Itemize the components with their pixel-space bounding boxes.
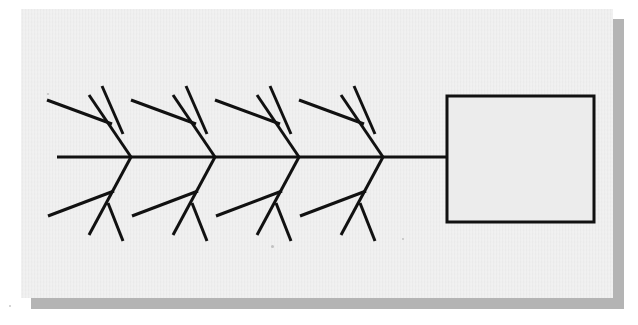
twig-bottom-4b — [360, 203, 375, 241]
twig-bottom-2a — [132, 191, 198, 216]
twig-bottom-1a — [48, 191, 114, 216]
twig-top-3b — [270, 86, 291, 134]
rib-bottom-3 — [257, 157, 299, 235]
twig-top-2b — [186, 86, 207, 134]
twig-bottom-1b — [108, 203, 123, 241]
effect-box-label — [447, 96, 594, 222]
paper-speck — [9, 305, 11, 307]
twig-bottom-3b — [276, 203, 291, 241]
paper-speck — [271, 245, 274, 248]
rib-bottom-4 — [341, 157, 383, 235]
twig-bottom-4a — [300, 191, 366, 216]
rib-bottom-1 — [89, 157, 131, 235]
twig-bottom-2b — [192, 203, 207, 241]
twig-bottom-3a — [216, 191, 282, 216]
twig-top-4b — [354, 86, 375, 134]
rib-bottom-2 — [173, 157, 215, 235]
paper-speck — [402, 238, 404, 240]
paper-speck — [47, 93, 49, 95]
diagram-canvas — [0, 0, 638, 325]
twig-top-1b — [102, 86, 123, 134]
